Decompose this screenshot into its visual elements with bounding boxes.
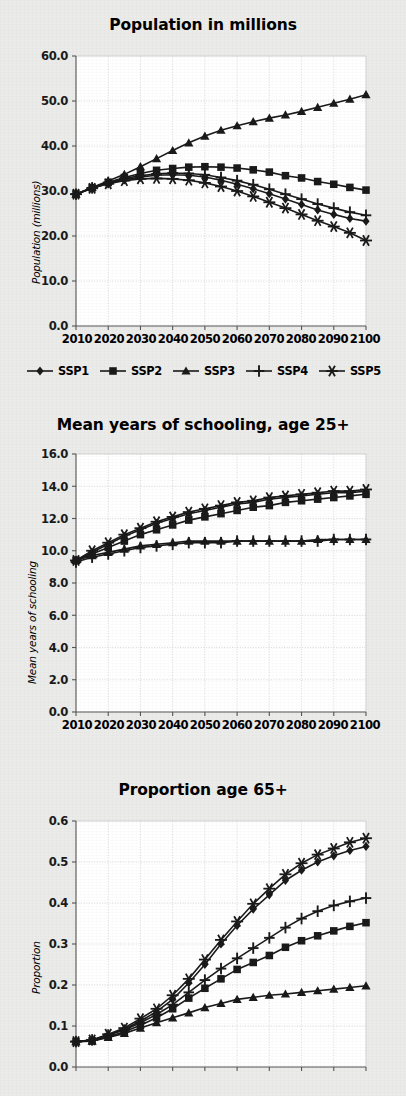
chart-panel-population: Population in millions Population (milli… [0,18,406,334]
marker-asterisk [326,366,338,376]
y-axis-tick-label: 0.6 [49,814,69,828]
chart-canvas-population: 0.010.020.030.040.050.060.0 [0,34,406,334]
y-axis-tick-label: 0.4 [49,896,69,910]
marker-square [185,516,193,524]
y-axis-tick-label: 30.0 [41,184,68,198]
x-axis-tick-label: 2020 [93,718,125,732]
y-axis-tick-label: 2.0 [49,673,69,687]
marker-square [282,171,290,179]
x-axis-tick-label: 2050 [189,332,221,346]
marker-square [233,965,241,973]
x-axis-tick-label: 2090 [317,332,349,346]
marker-square [298,174,306,182]
marker-square [109,367,117,375]
y-axis-tick-label: 0.0 [49,705,69,719]
plot-area-proportion65: Proportion 0.00.10.20.30.40.50.6 [0,799,406,1089]
x-axis-tick-label: 2010 [61,718,93,732]
y-axis-tick-label: 60.0 [41,49,68,63]
marker-square [362,186,370,194]
legend-swatch-plus-icon [244,363,274,379]
x-axis-tick-label: 2100 [349,332,381,346]
y-axis-label-proportion65: Proportion [30,941,42,994]
marker-square [233,506,241,514]
legend-label: SSP1 [57,364,89,378]
marker-square [330,180,338,188]
legend-item-ssp4[interactable]: SSP4 [244,363,308,379]
x-axis-tick-label: 2060 [221,332,253,346]
marker-square [169,521,177,529]
y-axis-label-population: Population (millions) [30,180,42,283]
marker-square [266,951,274,959]
y-axis-tick-label: 0.1 [49,1019,69,1033]
y-axis-tick-label: 10.0 [41,274,68,288]
legend-item-ssp3[interactable]: SSP3 [171,363,235,379]
y-axis-tick-label: 0.3 [49,937,69,951]
y-axis-tick-label: 0.2 [49,978,69,992]
chart-legend: SSP1SSP2SSP3SSP4SSP5 [10,363,396,379]
legend-swatch-asterisk-icon [317,363,347,379]
marker-square [314,177,322,185]
plot-area-schooling: Mean years of schooling 0.02.04.06.08.01… [0,434,406,722]
y-axis-tick-label: 6.0 [49,608,69,622]
page-title-schooling: Mean years of schooling, age 25+ [0,418,406,434]
page-title-population: Population in millions [0,18,406,34]
marker-square [153,526,161,534]
chart-canvas-proportion65: 0.00.10.20.30.40.50.6 [0,799,406,1089]
y-axis-tick-label: 8.0 [49,576,69,590]
x-axis-tick-label: 2070 [253,332,285,346]
x-axis-tick-label: 2060 [221,718,253,732]
x-axis-tick-label: 2100 [349,718,381,732]
y-axis-tick-label: 50.0 [41,94,68,108]
marker-square [314,932,322,940]
legend-item-ssp2[interactable]: SSP2 [98,363,162,379]
y-axis-tick-label: 0.0 [49,319,69,333]
x-axis-tick-label: 2030 [125,718,157,732]
marker-square [266,501,274,509]
marker-square [362,918,370,926]
x-axis-tick-label: 2020 [93,332,125,346]
y-axis-tick-label: 0.5 [49,855,69,869]
legend-label: SSP5 [349,364,381,378]
marker-square [282,943,290,951]
marker-square [346,183,354,191]
legend-swatch-triangle-icon [171,363,201,379]
marker-square [249,958,257,966]
x-axis-ticks-population: 2010202020302040205020602070208020902100 [61,332,381,346]
y-axis-tick-label: 0.0 [49,1060,69,1074]
legend-swatch-diamond-icon [25,363,55,379]
x-axis-tick-label: 2080 [285,718,317,732]
page-title-proportion65: Proportion age 65+ [0,783,406,799]
y-axis-tick-label: 4.0 [49,640,69,654]
marker-square [217,163,225,171]
chart-panel-proportion65: Proportion age 65+ Proportion 0.00.10.20… [0,783,406,1089]
x-axis-tick-label: 2050 [189,718,221,732]
legend-swatch-square-icon [98,363,128,379]
marker-square [298,936,306,944]
x-axis-tick-label: 2090 [317,718,349,732]
plot-area-population: Population (millions) 0.010.020.030.040.… [0,34,406,334]
legend-item-ssp5[interactable]: SSP5 [317,363,381,379]
marker-diamond [36,366,43,375]
marker-square [346,922,354,930]
legend-label: SSP2 [130,364,162,378]
chart-canvas-schooling: 0.02.04.06.08.010.012.014.016.0 [0,434,406,722]
y-axis-tick-label: 40.0 [41,139,68,153]
x-axis-tick-label: 2040 [157,332,189,346]
y-axis-tick-label: 14.0 [41,479,68,493]
legend-item-ssp1[interactable]: SSP1 [25,363,89,379]
x-axis-tick-label: 2010 [61,332,93,346]
x-axis-tick-label: 2070 [253,718,285,732]
y-axis-tick-label: 20.0 [41,229,68,243]
marker-square [266,168,274,176]
y-axis-tick-label: 16.0 [41,447,68,461]
x-axis-tick-label: 2030 [125,332,157,346]
chart-panel-schooling: Mean years of schooling, age 25+ Mean ye… [0,418,406,722]
marker-square [249,166,257,174]
marker-square [217,509,225,517]
marker-square [201,513,209,521]
y-axis-tick-label: 12.0 [41,511,68,525]
x-axis-tick-label: 2040 [157,718,189,732]
y-axis-label-schooling: Mean years of schooling [26,561,38,684]
marker-plus [254,365,265,377]
legend-label: SSP4 [276,364,308,378]
